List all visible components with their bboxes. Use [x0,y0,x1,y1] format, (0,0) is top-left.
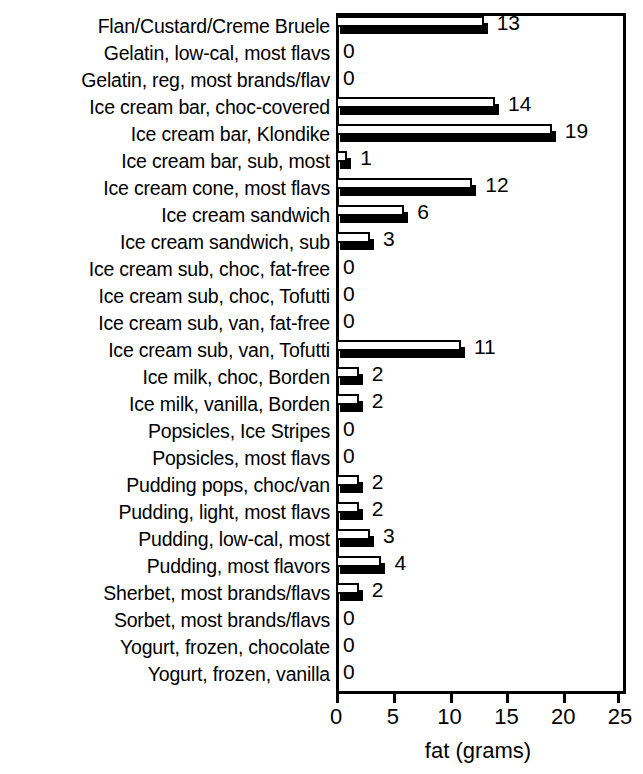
bar-row: 0 [336,283,620,311]
category-label: Ice cream bar, choc-covered [0,97,330,117]
bar-row: 2 [336,391,620,419]
bar-value-label: 0 [343,256,355,278]
category-label: Ice cream sandwich [0,205,330,225]
x-axis-tick [336,691,339,703]
bar [336,475,359,486]
category-axis-labels: Flan/Custard/Creme BrueleGelatin, low-ca… [0,13,330,688]
bar [336,502,359,513]
category-label: Yogurt, frozen, vanilla [0,664,330,684]
bar-row: 0 [336,445,620,473]
bar-row: 4 [336,553,620,581]
bar-value-label: 14 [508,93,531,115]
bar-value-label: 2 [372,390,384,412]
bar-value-label: 2 [372,579,384,601]
category-label: Gelatin, reg, most brands/flav [0,70,330,90]
bar-value-label: 3 [383,525,395,547]
bar-value-label: 2 [372,471,384,493]
bar-value-label: 0 [343,661,355,683]
category-label: Gelatin, low-cal, most flavs [0,43,330,63]
x-axis: 0510152025 [336,688,620,689]
bar-value-label: 1 [360,147,372,169]
bar-value-label: 4 [394,552,406,574]
bar-row: 6 [336,202,620,230]
bar-row: 2 [336,364,620,392]
bar [336,205,404,216]
bar [336,232,370,243]
category-label: Ice cream sub, choc, Tofutti [0,286,330,306]
bar-value-label: 12 [485,174,508,196]
bar-row: 12 [336,175,620,203]
bar-chart: Flan/Custard/Creme BrueleGelatin, low-ca… [0,0,643,774]
bar-row: 0 [336,634,620,662]
bar-row: 2 [336,580,620,608]
bar-row: 2 [336,472,620,500]
bar-value-label: 2 [372,363,384,385]
category-label: Ice cream sandwich, sub [0,232,330,252]
bar-value-label: 0 [343,418,355,440]
x-axis-tick-label: 5 [387,705,399,729]
bar-row: 0 [336,310,620,338]
bar-row: 19 [336,121,620,149]
category-label: Ice cream sub, van, Tofutti [0,340,330,360]
bar [336,583,359,594]
category-label: Sherbet, most brands/flavs [0,583,330,603]
bar-value-label: 19 [565,120,588,142]
category-label: Ice cream bar, Klondike [0,124,330,144]
x-axis-title: fat (grams) [336,738,620,764]
category-label: Ice cream sub, choc, fat-free [0,259,330,279]
x-axis-tick-label: 15 [494,705,518,729]
plot-area: 130014191126300011220022342000 [336,13,620,688]
bar-value-label: 0 [343,445,355,467]
bar-row: 0 [336,418,620,446]
bar-row: 2 [336,499,620,527]
bar-row: 11 [336,337,620,365]
category-label: Popsicles, Ice Stripes [0,421,330,441]
x-axis-tick [506,691,509,703]
bar-row: 0 [336,67,620,95]
category-label: Pudding pops, choc/van [0,475,330,495]
bar-value-label: 3 [383,228,395,250]
bar-value-label: 11 [474,336,496,358]
bar [336,151,347,162]
category-label: Pudding, light, most flavs [0,502,330,522]
bar-value-label: 0 [343,40,355,62]
x-axis-tick-label: 20 [551,705,575,729]
bar-value-label: 6 [417,201,429,223]
category-label: Yogurt, frozen, chocolate [0,637,330,657]
bar [336,178,472,189]
bar-value-label: 2 [372,498,384,520]
bar [336,556,381,567]
bar [336,16,484,27]
bar-row: 3 [336,229,620,257]
bar [336,394,359,405]
x-axis-tick [393,691,396,703]
bar-value-label: 13 [497,12,520,34]
bar-value-label: 0 [343,310,355,332]
bar-value-label: 0 [343,607,355,629]
category-label: Ice cream sub, van, fat-free [0,313,330,333]
x-axis-tick [450,691,453,703]
bar [336,124,552,135]
category-label: Pudding, most flavors [0,556,330,576]
bar-row: 0 [336,256,620,284]
category-label: Sorbet, most brands/flavs [0,610,330,630]
category-label: Ice milk, vanilla, Borden [0,394,330,414]
bar-value-label: 0 [343,67,355,89]
bar-value-label: 0 [343,283,355,305]
category-label: Pudding, low-cal, most [0,529,330,549]
bar [336,340,461,351]
bar-row: 0 [336,607,620,635]
bar-row: 1 [336,148,620,176]
bar-row: 0 [336,661,620,689]
bar [336,367,359,378]
x-axis-tick [617,691,620,703]
bar-value-label: 0 [343,634,355,656]
category-label: Ice cream cone, most flavs [0,178,330,198]
x-axis-tick-label: 0 [330,705,342,729]
x-axis-tick-label: 10 [437,705,461,729]
category-label: Popsicles, most flavs [0,448,330,468]
x-axis-tick-label: 25 [608,705,632,729]
bar-row: 3 [336,526,620,554]
bar-row: 0 [336,40,620,68]
category-label: Ice milk, choc, Borden [0,367,330,387]
